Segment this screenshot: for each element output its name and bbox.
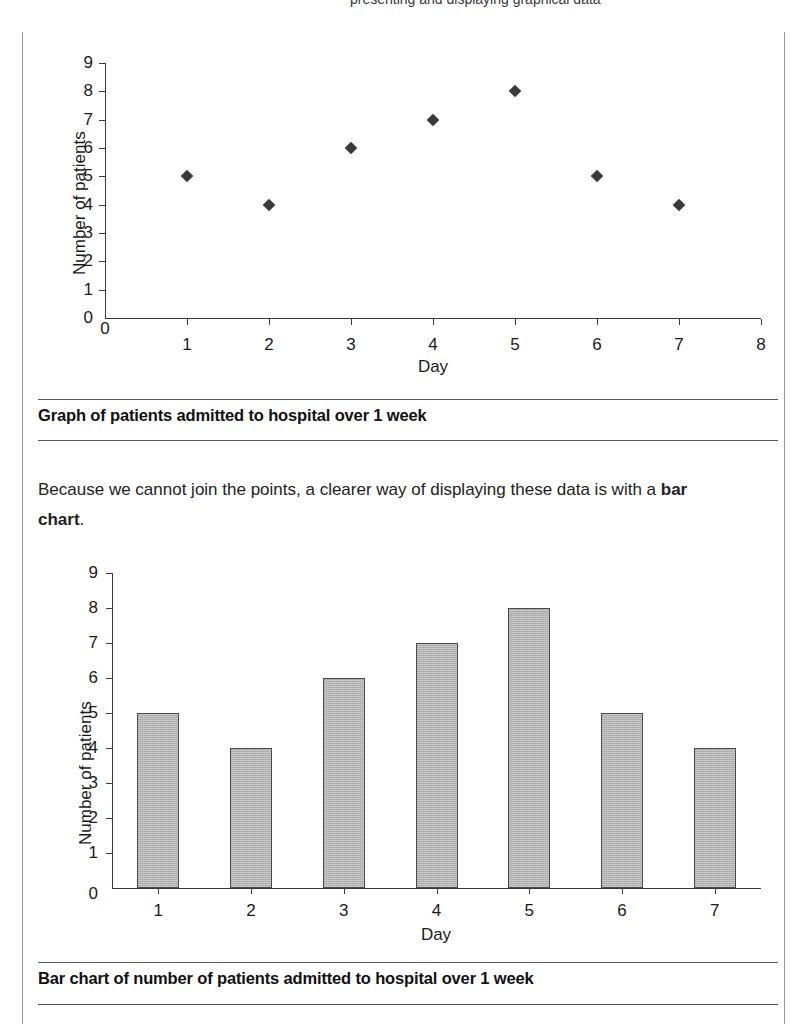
bar-column (137, 713, 179, 888)
bar-y-tick-label: 7 (66, 634, 98, 651)
bar-chart-figure: Number of patients 0123456789 1234567 Da… (0, 0, 812, 1024)
bar-x-tick-mark (344, 889, 345, 894)
bar-column (230, 748, 272, 888)
bar-y-tick-mark (106, 783, 112, 784)
bar-y-tick-mark (106, 818, 112, 819)
bar-column (694, 748, 736, 888)
bar-y-tick-label: 4 (66, 739, 98, 756)
bar-x-tick-mark (437, 889, 438, 894)
bar-y-tick-label: 8 (66, 599, 98, 616)
bar-column (323, 678, 365, 888)
bar-y-tick-label: 5 (66, 704, 98, 721)
bar-y-tick-label: 6 (66, 669, 98, 686)
bar-x-tick-mark (715, 889, 716, 894)
bar-x-tick-mark (158, 889, 159, 894)
bar-x-tick-mark (622, 889, 623, 894)
bar-y-tick-label: 2 (66, 809, 98, 826)
bar-x-tick-mark (529, 889, 530, 894)
bar-y-tick-mark (106, 713, 112, 714)
bar-chart-caption: Bar chart of number of patients admitted… (38, 969, 768, 988)
bar-x-tick-label: 4 (417, 902, 457, 919)
caption2-rule-top (38, 962, 778, 963)
bar-y-tick-mark (106, 643, 112, 644)
bar-column (601, 713, 643, 888)
bar-y-tick-mark (106, 748, 112, 749)
bar-y-tick-label: 0 (66, 885, 98, 902)
bar-x-tick-label: 5 (509, 902, 549, 919)
bar-x-axis-title: Day (336, 925, 536, 945)
bar-x-tick-label: 3 (324, 902, 364, 919)
bar-column (508, 608, 550, 888)
bar-x-tick-label: 6 (602, 902, 642, 919)
bar-column (416, 643, 458, 888)
bar-y-tick-mark (106, 608, 112, 609)
bar-y-tick-mark (106, 573, 112, 574)
bar-x-tick-label: 7 (695, 902, 735, 919)
bar-y-tick-label: 1 (66, 844, 98, 861)
bar-y-tick-label: 3 (66, 774, 98, 791)
caption2-rule-bottom (38, 1004, 778, 1005)
bar-x-tick-mark (251, 889, 252, 894)
bar-y-axis-line (112, 573, 113, 889)
bar-y-tick-mark (106, 678, 112, 679)
bar-y-tick-label: 9 (66, 564, 98, 581)
bar-x-tick-label: 1 (138, 902, 178, 919)
bar-x-tick-label: 2 (231, 902, 271, 919)
bar-y-tick-mark (106, 853, 112, 854)
